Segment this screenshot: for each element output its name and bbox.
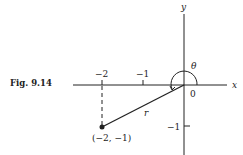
x-axis-label: x: [232, 80, 237, 90]
x-tick-label-minus-1: −1: [136, 69, 149, 79]
origin-label: 0: [190, 89, 196, 99]
polar-coordinate-diagram: Fig. 9.14 x y 0 −2 −1 −1 (−2, −1) r θ: [0, 0, 243, 155]
point-label: (−2, −1): [92, 133, 131, 143]
y-tick-label-minus-1: −1: [167, 122, 180, 132]
point-marker: [100, 125, 105, 130]
figure-caption: Fig. 9.14: [10, 78, 52, 88]
radius-label: r: [144, 108, 149, 118]
x-tick-label-minus-2: −2: [95, 69, 108, 79]
radius-line: [102, 85, 184, 127]
angle-label: θ: [191, 61, 197, 71]
y-axis-label: y: [180, 2, 187, 12]
